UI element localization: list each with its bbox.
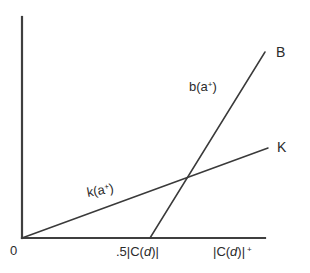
diagram-canvas [0,0,310,273]
line-diagram-figure: 0 .5|C(d)| |C(d)|+ B K b(a+) k(a+) [0,0,310,273]
function-label-b-suffix: ) [213,79,217,94]
x-tick-half-suffix: )| [151,244,159,259]
function-label-b: b(a+) [189,80,217,93]
x-tick-label-full: |C(d)|+ [213,245,252,258]
series-end-label-b: B [276,45,285,59]
series-end-label-k: K [277,140,286,154]
function-label-b-superscript: + [208,80,213,89]
function-label-k-superscript: + [103,182,109,192]
x-tick-full-suffix: )| [237,244,245,259]
function-label-b-prefix: b(a [189,79,208,94]
x-tick-full-prefix: |C( [213,244,230,259]
x-tick-label-half: .5|C(d)| [116,245,159,258]
x-tick-half-prefix: .5|C( [116,244,144,259]
x-tick-full-superscript: + [247,245,252,254]
series-line-k [22,148,268,238]
axis-origin-label: 0 [10,244,17,257]
